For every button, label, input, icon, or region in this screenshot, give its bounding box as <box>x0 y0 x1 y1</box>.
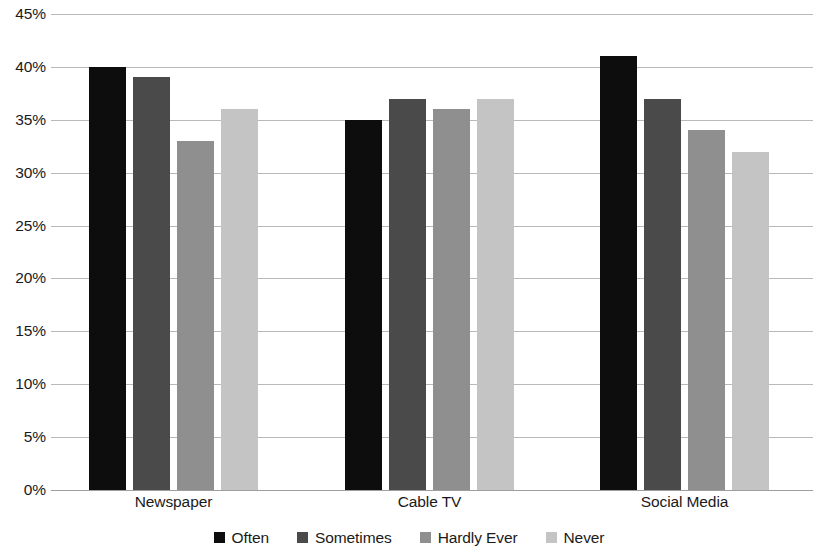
bar <box>600 56 637 490</box>
y-tick-label: 20% <box>0 270 46 286</box>
legend-swatch-icon <box>546 532 557 543</box>
bar <box>433 109 470 490</box>
legend-label: Hardly Ever <box>438 529 518 546</box>
bar <box>89 67 126 490</box>
legend-item: Sometimes <box>297 529 392 546</box>
legend-item: Often <box>214 529 269 546</box>
y-tick-label: 35% <box>0 112 46 128</box>
bar <box>477 99 514 490</box>
y-tick-label: 40% <box>0 59 46 75</box>
gridline <box>51 67 813 68</box>
y-tick-label: 45% <box>0 6 46 22</box>
y-tick-label: 25% <box>0 218 46 234</box>
legend-label: Never <box>564 529 605 546</box>
bar <box>221 109 258 490</box>
bar <box>644 99 681 490</box>
legend-label: Often <box>232 529 269 546</box>
y-tick-label: 30% <box>0 165 46 181</box>
y-tick-label: 10% <box>0 376 46 392</box>
chart-legend: OftenSometimesHardly EverNever <box>0 524 818 550</box>
bar-chart: 45%40%35%30%25%20%15%10%5%0% NewspaperCa… <box>0 0 818 551</box>
bar <box>133 77 170 490</box>
category-label: Social Media <box>595 492 775 512</box>
bar <box>345 120 382 490</box>
y-axis: 45%40%35%30%25%20%15%10%5%0% <box>0 0 46 551</box>
category-label: Cable TV <box>340 492 520 512</box>
legend-swatch-icon <box>420 532 431 543</box>
bar <box>688 130 725 490</box>
legend-item: Hardly Ever <box>420 529 518 546</box>
legend-swatch-icon <box>297 532 308 543</box>
axis-baseline <box>51 490 813 491</box>
x-axis: NewspaperCable TVSocial Media <box>0 492 818 516</box>
legend-swatch-icon <box>214 532 225 543</box>
bar <box>732 152 769 490</box>
legend-label: Sometimes <box>315 529 392 546</box>
category-label: Newspaper <box>84 492 264 512</box>
y-tick-label: 15% <box>0 323 46 339</box>
y-tick-label: 5% <box>0 429 46 445</box>
bar <box>389 99 426 490</box>
legend-item: Never <box>546 529 605 546</box>
gridline <box>51 14 813 15</box>
bar <box>177 141 214 490</box>
plot-area <box>51 14 813 490</box>
